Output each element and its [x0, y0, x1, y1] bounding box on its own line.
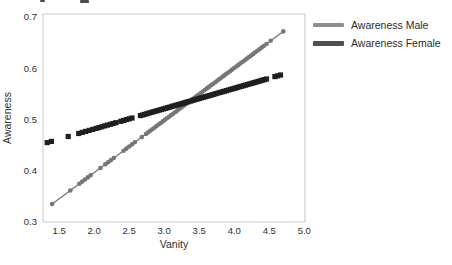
- x-tick-label: 2.0: [88, 225, 101, 236]
- legend-label-female: Awareness Female: [351, 37, 441, 49]
- female-data-point: [49, 139, 54, 144]
- legend-swatch-female: [313, 41, 344, 46]
- x-tick-label: 5.0: [298, 225, 311, 236]
- y-tick-label: 0.5: [24, 114, 37, 125]
- x-tick-label: 3.0: [158, 225, 171, 236]
- female-data-point: [264, 76, 269, 81]
- female-data-point: [66, 134, 71, 139]
- male-data-point: [98, 166, 103, 171]
- male-data-point: [264, 42, 269, 47]
- x-tick-label: 4.0: [228, 225, 241, 236]
- male-data-point: [140, 135, 145, 140]
- x-tick-label: 3.5: [193, 225, 206, 236]
- y-tick-label: 0.4: [24, 165, 37, 176]
- male-data-point: [268, 39, 273, 44]
- legend-label-male: Awareness Male: [351, 19, 428, 31]
- x-tick-label: 1.5: [53, 225, 66, 236]
- male-data-point: [112, 156, 117, 161]
- male-data-point: [88, 173, 93, 178]
- female-data-point: [278, 72, 283, 77]
- male-data-point: [133, 140, 138, 145]
- scatter-plot-figure: 0.30.40.50.60.71.52.02.53.03.54.04.55.0V…: [0, 0, 452, 265]
- male-data-point: [68, 188, 73, 193]
- y-axis-title: Awareness: [1, 92, 13, 144]
- x-tick-label: 2.5: [123, 225, 136, 236]
- x-tick-label: 4.5: [263, 225, 276, 236]
- male-data-point: [50, 202, 55, 207]
- female-data-point: [129, 115, 134, 120]
- legend: Awareness Male Awareness Female: [313, 19, 441, 49]
- female-data-point: [113, 120, 118, 125]
- legend-swatch-male: [313, 23, 344, 27]
- y-tick-label: 0.6: [24, 63, 37, 74]
- y-tick-label: 0.3: [24, 216, 37, 227]
- legend-item-male: Awareness Male: [313, 19, 441, 31]
- male-data-point: [281, 29, 286, 34]
- y-tick-label: 0.7: [24, 11, 37, 22]
- legend-item-female: Awareness Female: [313, 37, 441, 49]
- x-axis-title: Vanity: [160, 238, 189, 250]
